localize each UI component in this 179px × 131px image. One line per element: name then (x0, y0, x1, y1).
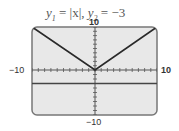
graph-screen (0, 0, 179, 131)
